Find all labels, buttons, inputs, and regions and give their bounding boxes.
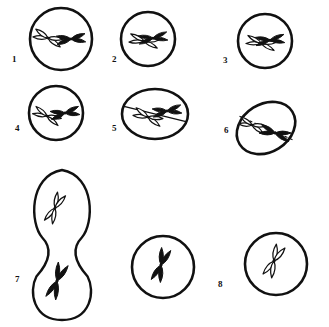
chromosome-outline xyxy=(263,244,285,278)
cell-number-label-2: 2 xyxy=(112,55,117,64)
chromatid-arm xyxy=(270,34,285,40)
cell-number-label-8: 8 xyxy=(218,280,223,289)
cell-number-label-5: 5 xyxy=(112,124,117,133)
cell-7 xyxy=(33,170,91,320)
cell-8 xyxy=(132,236,194,298)
cell-4 xyxy=(29,86,83,140)
cell-number-label-4: 4 xyxy=(15,124,20,133)
cell-1 xyxy=(30,8,92,70)
chromosome-solid xyxy=(152,105,182,118)
figure-canvas xyxy=(0,0,329,327)
cell-9 xyxy=(245,233,307,295)
chromosome-solid xyxy=(46,262,69,300)
chromosome-solid xyxy=(151,247,171,282)
cell-membrane-dividing xyxy=(33,170,91,320)
cell-number-label-6: 6 xyxy=(224,126,229,135)
cell-number-label-7: 7 xyxy=(15,275,20,284)
cell-3 xyxy=(238,14,292,68)
cell-5 xyxy=(122,89,188,139)
chromatid-arm xyxy=(71,33,86,39)
cell-number-label-1: 1 xyxy=(12,55,17,64)
chromosome-solid xyxy=(50,106,80,120)
cell-number-label-3: 3 xyxy=(223,56,228,65)
cell-2 xyxy=(121,12,175,66)
chromosome-outline xyxy=(44,192,65,224)
cell-6 xyxy=(227,91,305,165)
chromosome-solid xyxy=(56,33,85,44)
cells-layer xyxy=(29,8,307,320)
chromosome-solid xyxy=(259,124,291,141)
cell-membrane-circle xyxy=(245,233,307,295)
cell-membrane-circle xyxy=(132,236,194,298)
chromatid-arm xyxy=(166,105,181,112)
